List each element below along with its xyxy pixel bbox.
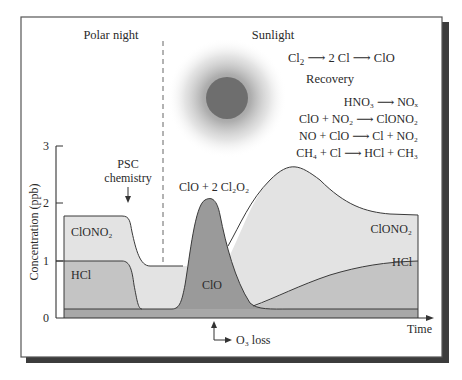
hcl-right-label: HCl [392,255,413,269]
y-tick-label-3: 3 [43,139,49,153]
x-axis-label: Time [407,322,432,336]
o3-loss-label: O₃ loss [236,333,271,347]
psc-label-line1: PSC [117,157,138,171]
polar-night-label: Polar night [83,28,139,42]
recovery-reaction-4: CH₄ + Cl ⟶ HCl + CH₃ [296,146,418,160]
y-tick-label-2: 2 [43,196,49,210]
hcl-left-label: HCl [71,268,92,282]
clono2-right-label: ClONO₂ [370,222,412,236]
y-tick-label-0: 0 [43,311,49,325]
recovery-reaction-1: HNO₃ ⟶ NOₓ [344,95,419,109]
psc-label-line2: chemistry [104,171,151,185]
y-axis-label: Concentration (ppb) [27,184,41,281]
clono2-left-label: ClONO₂ [71,225,113,239]
sunlight-reaction: Cl2 ⟶ 2 Cl ⟶ ClO [288,51,395,67]
sunlight-label: Sunlight [252,28,295,42]
ozone-chlorine-diagram: Polar night Sunlight Cl2 ⟶ 2 Cl ⟶ ClO Re… [0,0,462,380]
recovery-title: Recovery [306,72,355,86]
recovery-reaction-3: NO + ClO ⟶ Cl + NO₂ [299,129,418,143]
y-tick-label-1: 1 [43,254,49,268]
recovery-reaction-2: ClO + NO₂ ⟶ ClONO₂ [299,112,418,126]
base-reservoir-band [64,309,418,318]
peak-label: ClO + 2 Cl₂O₂ [179,180,249,194]
sun-icon [206,77,248,119]
clo-label: ClO [202,278,222,292]
